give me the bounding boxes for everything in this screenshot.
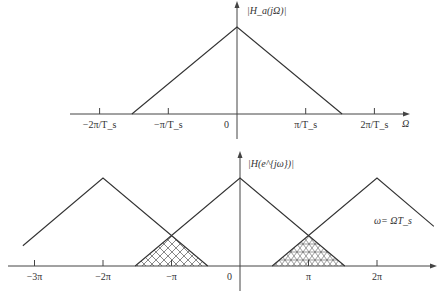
bottom-y-label: |H(e^{jω})|: [248, 158, 294, 170]
bottom-plot: −3π−2π−π0π2π |H(e^{jω})| ω= ΩT_s: [8, 151, 437, 291]
bottom-x-tick-label: 0: [227, 271, 232, 282]
bottom-y-axis-arrow-icon: [238, 151, 243, 158]
bottom-x-tick-label: −3π: [27, 271, 43, 282]
bottom-x-tick-label: −π: [166, 271, 177, 282]
top-y-axis-arrow-icon: [235, 1, 240, 8]
top-x-tick-label: 2π/T_s: [360, 119, 388, 130]
top-x-tick-label: π/T_s: [294, 119, 317, 130]
top-x-tick-label: −π/T_s: [154, 119, 183, 130]
bottom-x-axis-arrow-icon: [430, 264, 437, 269]
aliasing-diagram: −2π/T_s−π/T_s0π/T_s2π/T_s |H_a(jΩ)| Ω −3…: [0, 0, 447, 303]
top-x-tick-label: −2π/T_s: [83, 119, 117, 130]
bottom-x-tick-label: −2π: [95, 271, 111, 282]
frequency-mapping-annotation: ω= ΩT_s: [374, 215, 412, 226]
top-y-label: |H_a(jΩ)|: [247, 5, 286, 17]
bottom-x-tick-label: 2π: [372, 271, 382, 282]
top-x-tick-label: 0: [224, 119, 229, 130]
bottom-x-tick-label: π: [306, 271, 311, 282]
top-x-label: Ω: [402, 118, 409, 129]
top-x-axis-arrow-icon: [403, 112, 410, 117]
top-plot: −2π/T_s−π/T_s0π/T_s2π/T_s |H_a(jΩ)| Ω: [70, 1, 410, 139]
